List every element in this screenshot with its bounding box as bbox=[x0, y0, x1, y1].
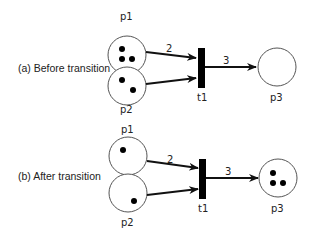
label-p3: p3 bbox=[270, 92, 283, 103]
arc-weight-p1-t1: 2 bbox=[167, 154, 173, 165]
label-p1: p1 bbox=[120, 11, 133, 22]
transition-t1 bbox=[199, 159, 206, 199]
arc-weight-t1-p3: 3 bbox=[225, 166, 231, 177]
token bbox=[119, 46, 125, 52]
transition-t1 bbox=[198, 48, 205, 88]
token bbox=[119, 56, 125, 62]
token bbox=[270, 170, 276, 176]
place-p1 bbox=[109, 137, 147, 175]
place-p2 bbox=[108, 67, 146, 105]
place-p3 bbox=[259, 159, 297, 197]
petri-net-diagram: (a) Before transition p1 p2 2 t1 3 p3 (b… bbox=[0, 0, 313, 241]
token bbox=[120, 147, 126, 153]
token bbox=[130, 87, 136, 93]
panel-after: (b) After transition p1 p2 2 t1 3 p3 bbox=[18, 124, 297, 228]
token bbox=[119, 77, 125, 83]
label-p1: p1 bbox=[121, 124, 134, 135]
label-p3: p3 bbox=[271, 203, 284, 214]
token bbox=[131, 198, 137, 204]
caption-after: (b) After transition bbox=[18, 170, 101, 182]
label-p2: p2 bbox=[121, 217, 134, 228]
arc-p2-t1 bbox=[146, 78, 196, 84]
arc-p2-t1 bbox=[147, 189, 198, 195]
token bbox=[280, 180, 286, 186]
label-t1: t1 bbox=[198, 203, 208, 214]
token bbox=[270, 180, 276, 186]
token bbox=[129, 56, 135, 62]
place-p3 bbox=[258, 48, 296, 86]
panel-before: (a) Before transition p1 p2 2 t1 3 p3 bbox=[18, 11, 296, 115]
caption-before: (a) Before transition bbox=[18, 62, 110, 74]
arc-weight-p1-t1: 2 bbox=[166, 43, 172, 54]
place-p2 bbox=[109, 174, 147, 212]
label-p2: p2 bbox=[120, 104, 133, 115]
label-t1: t1 bbox=[197, 92, 207, 103]
arc-weight-t1-p3: 3 bbox=[223, 55, 229, 66]
